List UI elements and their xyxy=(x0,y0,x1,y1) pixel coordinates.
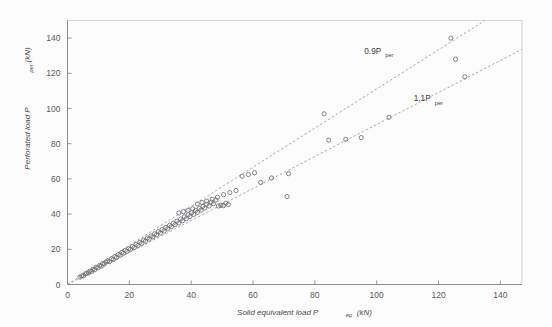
x-axis-title-unit: (kN) xyxy=(357,308,372,317)
annotation-label: 0.9P xyxy=(364,47,381,56)
y-tick-label: 40 xyxy=(51,209,61,219)
x-tick-label: 80 xyxy=(310,290,320,300)
x-tick-label: 20 xyxy=(125,290,135,300)
annotation-label: 1.1P xyxy=(414,94,431,103)
x-axis-title-subscript: eq xyxy=(346,312,353,318)
x-tick-label: 40 xyxy=(186,290,196,300)
y-tick-label: 100 xyxy=(46,104,60,114)
x-axis-title: Solid equivalent load P xyxy=(237,308,319,317)
annotation-subscript: per xyxy=(435,100,443,106)
x-tick-label: 100 xyxy=(370,290,384,300)
y-axis-title: Perforated load P xyxy=(23,107,32,170)
x-tick-label: 60 xyxy=(248,290,258,300)
y-tick-label: 140 xyxy=(46,33,60,43)
scatter-chart-figure: 020406080100120140020406080100120140 0.9… xyxy=(0,0,552,327)
y-tick-label: 60 xyxy=(51,174,61,184)
y-tick-label: 20 xyxy=(51,244,61,254)
x-tick-label: 0 xyxy=(65,290,70,300)
y-tick-label: 0 xyxy=(56,280,61,290)
annotation-subscript: per xyxy=(385,52,393,58)
y-axis-title-subscript: per xyxy=(28,63,34,73)
x-tick-label: 140 xyxy=(493,290,507,300)
y-axis-title-unit: (kN) xyxy=(23,47,32,62)
chart-svg: 020406080100120140020406080100120140 0.9… xyxy=(0,0,552,327)
y-tick-label: 80 xyxy=(51,139,61,149)
y-tick-label: 120 xyxy=(46,68,60,78)
x-tick-label: 120 xyxy=(431,290,445,300)
